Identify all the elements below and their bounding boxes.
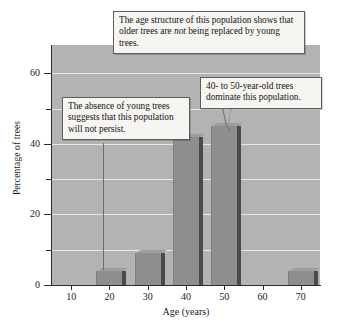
callout-absence-young-text: The absence of young trees suggests that… xyxy=(68,101,174,134)
x-tick-label-60: 60 xyxy=(248,291,278,302)
x-tick xyxy=(224,286,225,290)
x-tick xyxy=(148,286,149,290)
bar-front-face xyxy=(288,271,315,285)
callout-age-structure: The age structure of this population sho… xyxy=(113,11,305,54)
y-tick xyxy=(44,144,51,145)
x-tick-label-20: 20 xyxy=(94,291,124,302)
age-structure-bar-chart: 0204060 10203040506070 Percentage of tre… xyxy=(0,0,345,326)
x-tick xyxy=(263,286,264,290)
callout-leader-line-absence-young xyxy=(103,143,104,270)
y-tick xyxy=(44,285,51,286)
bar-side-face xyxy=(122,271,126,285)
x-tick-label-70: 70 xyxy=(286,291,316,302)
y-tick-label-0: 0 xyxy=(16,280,40,290)
y-tick xyxy=(44,73,51,74)
callout-age-structure-emphasis: not xyxy=(174,26,186,36)
x-tick-label-10: 10 xyxy=(56,291,86,302)
x-tick xyxy=(301,286,302,290)
y-axis-title: Percentage of trees xyxy=(12,98,22,218)
x-tick-label-50: 50 xyxy=(209,291,239,302)
y-tick xyxy=(46,179,51,180)
y-axis-line xyxy=(51,45,52,286)
bar-front-face xyxy=(96,271,123,285)
x-tick xyxy=(109,286,110,290)
callout-dominant-text: 40- to 50-year-old trees dominate this p… xyxy=(206,81,301,102)
callout-dominant: 40- to 50-year-old trees dominate this p… xyxy=(200,77,322,109)
x-axis-title: Age (years) xyxy=(52,306,320,317)
y-tick-label-60: 60 xyxy=(16,68,40,78)
gridline xyxy=(52,73,320,74)
bar-30 xyxy=(135,253,161,285)
x-tick-label-30: 30 xyxy=(133,291,163,302)
bar-40 xyxy=(173,137,199,285)
bar-front-face xyxy=(173,137,200,285)
y-tick xyxy=(46,109,51,110)
bar-front-face xyxy=(135,253,162,285)
bar-20 xyxy=(96,271,122,285)
y-tick xyxy=(46,250,51,251)
bar-side-face xyxy=(199,137,203,285)
bar-70 xyxy=(288,271,314,285)
bar-side-face xyxy=(161,253,165,285)
bar-front-face xyxy=(211,126,238,285)
y-tick xyxy=(44,214,51,215)
bar-side-face xyxy=(237,126,241,285)
x-tick xyxy=(186,286,187,290)
callout-absence-young: The absence of young trees suggests that… xyxy=(62,97,190,140)
bar-50 xyxy=(211,126,237,285)
x-tick-label-40: 40 xyxy=(171,291,201,302)
bar-side-face xyxy=(314,271,318,285)
x-tick xyxy=(71,286,72,290)
